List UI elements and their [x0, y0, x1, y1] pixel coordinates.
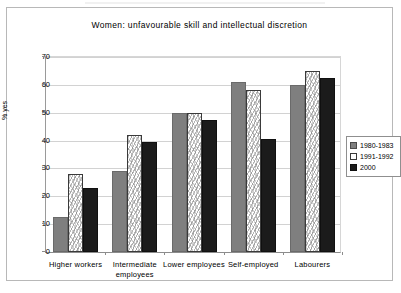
bar-groups [46, 56, 340, 252]
bar[interactable] [127, 135, 142, 252]
y-axis-title: % yes [1, 101, 8, 120]
x-axis-tick-mark [283, 252, 284, 255]
bar[interactable] [246, 90, 261, 252]
legend-item[interactable]: 2000 [350, 162, 398, 173]
legend-item[interactable]: 1991-1992 [350, 151, 398, 162]
legend-item-label: 2000 [360, 164, 376, 171]
bar-group [231, 56, 276, 252]
y-axis-tick-mark [42, 112, 45, 113]
bar-group [112, 56, 157, 252]
chart-title: Women: unfavourable skill and intellectu… [7, 20, 392, 30]
chart-legend: 1980-1983 1991-1992 2000 [346, 136, 401, 177]
y-axis-tick-mark [42, 251, 45, 252]
x-axis-tick-mark [342, 252, 343, 255]
legend-item-label: 1991-1992 [360, 153, 393, 160]
y-axis-tick-mark [42, 140, 45, 141]
page-top-cutoff-strip [0, 0, 400, 6]
bar[interactable] [305, 71, 320, 252]
bar-group [290, 56, 335, 252]
legend-item-label: 1980-1983 [360, 142, 393, 149]
x-axis-category-label: Labourers [277, 260, 348, 270]
y-axis-tick-mark [42, 167, 45, 168]
legend-swatch-icon [350, 142, 357, 149]
bar[interactable] [187, 113, 202, 252]
bar[interactable] [231, 82, 246, 252]
y-axis-tick-mark [42, 56, 45, 57]
bar[interactable] [53, 217, 68, 252]
bar[interactable] [261, 139, 276, 252]
bar[interactable] [83, 188, 98, 252]
bar[interactable] [202, 120, 217, 252]
bar[interactable] [68, 174, 83, 252]
x-axis-tick-mark [224, 252, 225, 255]
bar[interactable] [112, 171, 127, 252]
bar-group [53, 56, 98, 252]
legend-item[interactable]: 1980-1983 [350, 140, 398, 151]
y-axis-tick-mark [42, 84, 45, 85]
cutoff-text-remnant [85, 2, 325, 4]
bar[interactable] [172, 113, 187, 252]
bar-group [172, 56, 217, 252]
legend-swatch-icon [350, 164, 357, 171]
y-axis-tick-mark [42, 223, 45, 224]
legend-swatch-icon [350, 153, 357, 160]
x-axis-tick-mark [164, 252, 165, 255]
chart-frame: Women: unfavourable skill and intellectu… [6, 7, 393, 281]
bar[interactable] [290, 85, 305, 252]
bar[interactable] [142, 142, 157, 252]
bar[interactable] [320, 78, 335, 252]
x-axis-tick-mark [105, 252, 106, 255]
y-axis-tick-mark [42, 195, 45, 196]
